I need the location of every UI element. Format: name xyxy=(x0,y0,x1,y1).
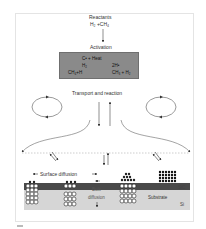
activation-reaction-2-right: 2H• xyxy=(112,63,119,68)
activation-reaction-3-left: CH₄+H xyxy=(68,70,82,75)
transport-arrows xyxy=(99,102,110,126)
circulation-loop-left-icon xyxy=(32,96,62,119)
activation-label: Activation xyxy=(90,45,112,50)
transport-label: Transport and reaction xyxy=(72,91,122,96)
diamond-crystallite xyxy=(159,171,176,182)
sic-label: SiC xyxy=(178,186,185,191)
adsorption-arrows xyxy=(50,152,161,165)
diamond-nucleus-3 xyxy=(121,173,135,181)
atom-cluster-2 xyxy=(64,184,76,206)
sic-layer xyxy=(24,183,190,190)
activation-reaction-1: C• + Heat xyxy=(82,56,101,61)
circulation-loop-right-icon xyxy=(146,96,176,119)
activation-box: C• + Heat H₂ 2H• CH₄+H CH₃ + H₂ xyxy=(59,52,139,79)
reactants-formula: H₂ +CH₄ xyxy=(90,22,109,27)
atom-cluster-1 xyxy=(26,184,38,204)
adatoms-2 xyxy=(66,181,76,183)
bulk-diffusion-label-1: Bulk xyxy=(92,188,101,193)
adatoms-1 xyxy=(29,181,35,183)
reactants-label: Reactants xyxy=(89,15,112,20)
bulk-diffusion-label-2: diffusion xyxy=(88,196,105,201)
activation-reaction-3-right: CH₃ + H₂ xyxy=(112,70,130,75)
si-label: Si xyxy=(180,203,184,208)
caption-marker xyxy=(17,225,23,227)
substrate-label: Substrate xyxy=(148,196,167,201)
surface-diffusion-label: Surface diffusion xyxy=(40,172,77,177)
activation-reaction-2-left: H₂ xyxy=(82,63,87,68)
flow-curves xyxy=(22,120,190,152)
